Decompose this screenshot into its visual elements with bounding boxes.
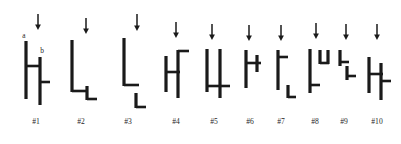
stimulus-figure-panel: #1ab#2#3#4#5#6#7#8#9#10: [0, 0, 401, 144]
item-caption-2: #2: [77, 117, 85, 126]
item-caption-8: #8: [311, 117, 319, 126]
stimulus-drawing-canvas: #1ab#2#3#4#5#6#7#8#9#10: [0, 0, 401, 144]
item-caption-9: #9: [340, 117, 348, 126]
item-caption-3: #3: [124, 117, 132, 126]
item-caption-1: #1: [32, 117, 40, 126]
item-caption-6: #6: [246, 117, 254, 126]
item-caption-7: #7: [277, 117, 285, 126]
item-caption-10: #10: [371, 117, 383, 126]
item-caption-4: #4: [172, 117, 180, 126]
item-caption-5: #5: [210, 117, 218, 126]
annotation-label-b: b: [40, 46, 44, 55]
